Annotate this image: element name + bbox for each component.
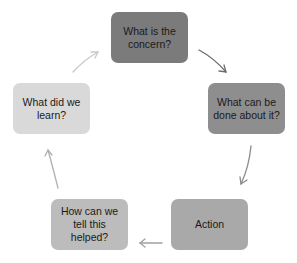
step-label: Action [195, 218, 224, 231]
cycle-diagram: What is the concern? What can be done ab… [0, 0, 297, 263]
arrow-done-to-action [240, 146, 251, 184]
step-label: What is the concern? [115, 25, 184, 51]
arrow-concern-to-done [199, 50, 226, 72]
step-action: Action [171, 199, 248, 250]
step-label: What did we learn? [17, 96, 86, 122]
arrow-helped-to-learn [45, 150, 58, 188]
arrow-learn-to-concern [73, 52, 98, 72]
step-what-is-the-concern: What is the concern? [111, 12, 188, 63]
step-label: How can we tell this helped? [55, 205, 124, 244]
step-what-did-we-learn: What did we learn? [13, 83, 90, 134]
arrow-action-to-helped [140, 239, 162, 247]
step-what-can-be-done: What can be done about it? [208, 83, 285, 134]
step-how-can-we-tell: How can we tell this helped? [51, 199, 128, 250]
step-label: What can be done about it? [212, 96, 281, 122]
